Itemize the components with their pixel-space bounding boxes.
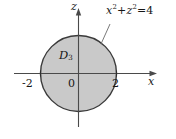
coordinate-plane-graphic xyxy=(0,0,176,139)
x-tick-label-negative-2: -2 xyxy=(22,78,33,89)
x-axis-label: x xyxy=(148,76,154,87)
equation-label: x2+z2=4 xyxy=(106,5,154,16)
z-axis-label: z xyxy=(71,1,77,12)
x-tick-label-positive-2: 2 xyxy=(112,78,119,89)
equation-operator: + xyxy=(117,4,126,17)
region-subscript: 3 xyxy=(68,53,73,62)
region-label-d3: D3 xyxy=(59,50,73,62)
equation-value: 4 xyxy=(146,4,153,17)
equation-equals: = xyxy=(137,4,146,17)
figure-container: x2+z2=4 D3 z x -2 2 0 xyxy=(0,0,176,139)
equation-leader-line xyxy=(101,24,110,44)
region-letter: D xyxy=(59,48,68,62)
origin-label: 0 xyxy=(68,78,75,89)
